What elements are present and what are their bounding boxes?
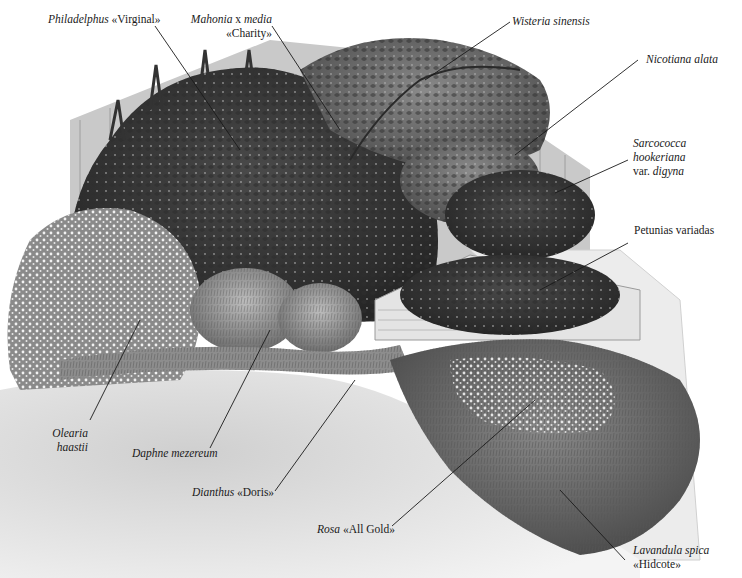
label-mahonia-genus: Mahonia [191, 13, 233, 25]
label-petunias-name: Petunias variadas [634, 224, 714, 236]
label-mahonia-species: media [244, 13, 272, 25]
label-rosa: Rosa «All Gold» [317, 522, 395, 536]
label-olearia-line2: haastii [57, 441, 88, 453]
label-petunias: Petunias variadas [634, 223, 714, 237]
label-olearia-line1: Olearia [52, 427, 88, 439]
label-mahonia-x: x [232, 13, 244, 25]
label-sarcococca-variety: digyna [653, 165, 684, 177]
label-daphne-name: Daphne mezereum [132, 447, 217, 459]
label-mahonia-cultivar: «Charity» [190, 26, 272, 40]
label-rosa-genus: Rosa [317, 523, 340, 535]
label-philadelphus-genus: Philadelphus [48, 13, 109, 25]
label-dianthus: Dianthus «Doris» [192, 485, 274, 499]
label-daphne: Daphne mezereum [132, 446, 217, 460]
label-sarcococca-var: var. [633, 165, 653, 177]
label-nicotiana: Nicotiana alata [646, 52, 718, 66]
label-sarcococca-line2: hookeriana [633, 151, 685, 163]
label-philadelphus-cultivar: «Virginal» [109, 13, 161, 25]
label-sarcococca: Sarcococca hookeriana var. digyna [633, 136, 686, 178]
label-wisteria-name: Wisteria sinensis [512, 15, 590, 27]
label-mahonia: Mahonia x media «Charity» [190, 12, 272, 40]
label-rosa-cultivar: «All Gold» [340, 523, 395, 535]
label-sarcococca-line1: Sarcococca [633, 137, 686, 149]
label-lavandula-cultivar: «Hidcote» [633, 557, 709, 571]
garden-plan-illustration: Philadelphus «Virginal» Mahonia x media … [0, 0, 742, 578]
garden-drawing [0, 0, 742, 578]
label-olearia: Olearia haastii [40, 426, 88, 454]
label-philadelphus: Philadelphus «Virginal» [48, 12, 161, 26]
label-dianthus-genus: Dianthus [192, 486, 234, 498]
label-wisteria: Wisteria sinensis [512, 14, 590, 28]
label-nicotiana-name: Nicotiana alata [646, 53, 718, 65]
label-dianthus-cultivar: «Doris» [234, 486, 274, 498]
label-lavandula: Lavandula spica «Hidcote» [633, 543, 709, 571]
label-lavandula-name: Lavandula spica [633, 544, 709, 556]
